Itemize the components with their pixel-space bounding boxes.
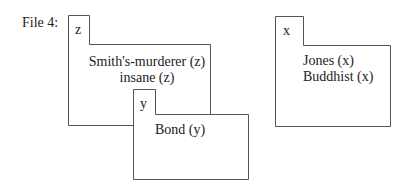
file-card-z-entry: insane (z) xyxy=(84,70,210,86)
file-card-x-entry: Buddhist (x) xyxy=(303,69,373,85)
file-cards-diagram xyxy=(0,0,410,189)
file-card-x-tab-label: x xyxy=(283,23,290,39)
file-card-y-entry: Bond (y) xyxy=(155,122,205,138)
file-card-z-entry: Smith's-murderer (z) xyxy=(84,54,210,70)
file-card-z-tab-label: z xyxy=(75,22,81,38)
file-card-x-entry: Jones (x) xyxy=(303,53,354,69)
file-card-y-tab-label: y xyxy=(140,96,147,112)
file-label: File 4: xyxy=(22,15,58,31)
